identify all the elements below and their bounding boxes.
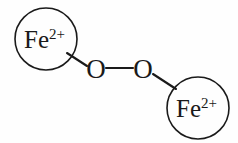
iron-right-charge: 2+: [201, 95, 217, 111]
iron-left-charge: 2+: [49, 26, 65, 42]
iron-left-label: Fe2+: [24, 26, 65, 53]
bond-oxygen-right-iron-right: [153, 74, 176, 89]
chemical-structure-diagram: Fe2+ Fe2+ O O: [0, 0, 238, 143]
iron-left-element-symbol: Fe: [24, 26, 49, 53]
oxygen-left-label: O: [86, 54, 106, 84]
iron-right-label: Fe2+: [176, 95, 217, 122]
oxygen-right-label: O: [133, 54, 153, 84]
structure-canvas: Fe2+ Fe2+ O O: [0, 0, 238, 143]
iron-right-element-symbol: Fe: [176, 95, 201, 122]
